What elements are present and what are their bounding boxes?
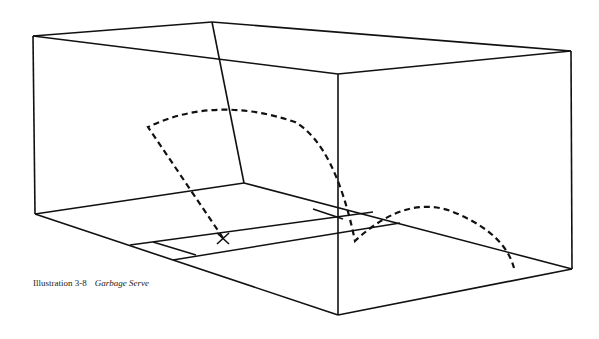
server-position-x-icon: [217, 233, 229, 244]
court-walls: [33, 22, 572, 315]
caption-label: Illustration 3-8: [33, 278, 87, 288]
figure-caption: Illustration 3-8Garbage Serve: [33, 278, 149, 288]
floor-service-zone: [130, 209, 400, 260]
caption-title: Garbage Serve: [95, 278, 149, 288]
court-diagram: [0, 0, 599, 339]
